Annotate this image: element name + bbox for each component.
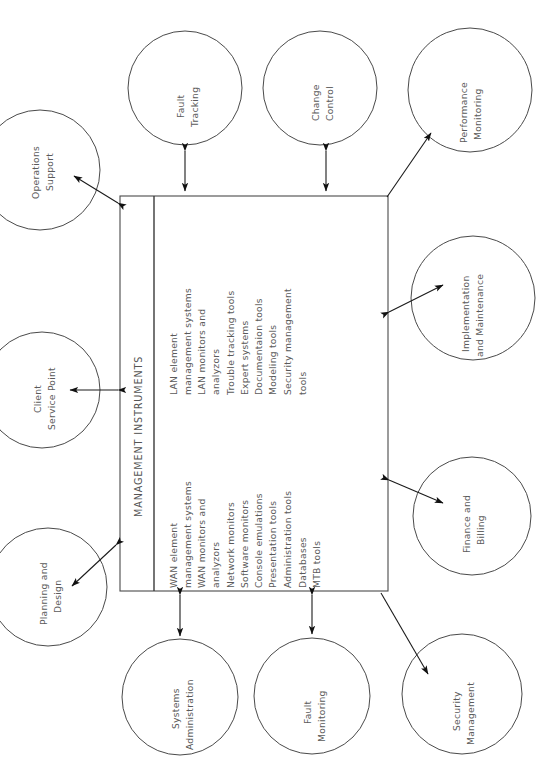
node-label-security-management: Security <box>452 691 461 731</box>
list-item: Documentaion tools <box>254 298 263 395</box>
node-circle-performance-monitoring[interactable] <box>408 28 532 152</box>
list-item: LAN element <box>169 333 178 395</box>
list-item: management systems <box>183 288 192 395</box>
list-item: WAN element <box>169 523 178 588</box>
connector-finance-and-billing <box>389 480 443 503</box>
list-item: LAN monitors and <box>197 309 206 395</box>
node-circle-finance-and-billing[interactable] <box>413 457 531 575</box>
node-label-change-control: Control <box>325 86 334 121</box>
diagram-canvas: MANAGEMENT INSTRUMENTS WAN element manag… <box>0 0 554 783</box>
node-circle-security-management[interactable] <box>402 634 522 754</box>
node-label-client-service-point: Service Point <box>47 367 56 430</box>
list-item: tools <box>298 372 307 395</box>
node-label-operations-support: Operations <box>31 146 40 199</box>
connector-operations-support <box>74 176 118 203</box>
node-label-planning-and-design: Design <box>53 580 62 613</box>
node-circle-fault-monitoring[interactable] <box>254 638 370 754</box>
node-label-implementation-and-maintenance: Implementation <box>461 276 470 352</box>
node-label-fault-tracking: Tracking <box>190 87 199 127</box>
list-item: Console emulations <box>254 493 263 588</box>
node-circle-implementation-and-maintenance[interactable] <box>411 236 535 360</box>
node-label-fault-tracking: Fault <box>176 95 185 118</box>
node-label-implementation-and-maintenance: and Maintenance <box>475 274 484 357</box>
node-label-systems-administration: Systems <box>171 688 180 729</box>
node-label-performance-monitoring: Monitoring <box>473 88 482 140</box>
node-label-systems-administration: Administration <box>185 679 194 750</box>
node-label-performance-monitoring: Performance <box>459 82 468 143</box>
list-item: Security management <box>283 288 292 395</box>
node-label-planning-and-design: Planning and <box>39 562 48 625</box>
list-item: Trouble tracking tools <box>226 291 235 395</box>
list-item: WAN monitors and <box>197 498 206 588</box>
node-label-operations-support: Support <box>45 153 54 191</box>
connector-implementation-and-maintenance <box>389 285 443 312</box>
list-item: Presentation tools <box>268 501 277 588</box>
connector-planning-and-design <box>72 545 116 586</box>
node-label-fault-monitoring: Fault <box>303 701 312 724</box>
node-label-fault-monitoring: Monitoring <box>317 690 326 742</box>
list-item: Network monitors <box>226 502 235 588</box>
connector-performance-monitoring <box>387 133 431 197</box>
node-label-client-service-point: Client <box>33 385 42 413</box>
list-item: Expert systems <box>240 320 249 395</box>
node-label-finance-and-billing: Billing <box>476 515 485 545</box>
list-item: Databases <box>298 537 307 588</box>
list-item: Administration tools <box>283 491 292 588</box>
connector-security-management <box>381 593 428 674</box>
node-label-change-control: Change <box>311 84 320 121</box>
list-item: Modeling tools <box>268 325 277 395</box>
node-label-security-management: Management <box>466 682 475 745</box>
list-item: analyzors <box>211 542 220 588</box>
node-circle-fault-tracking[interactable] <box>128 31 242 145</box>
list-item: MTB tools <box>312 541 321 588</box>
list-item: management systems <box>183 481 192 588</box>
list-item: analyzors <box>211 349 220 395</box>
page-title: MANAGEMENT INSTRUMENTS <box>134 356 144 517</box>
list-item: Software monitors <box>240 500 249 588</box>
node-label-finance-and-billing: Finance and <box>462 495 471 553</box>
